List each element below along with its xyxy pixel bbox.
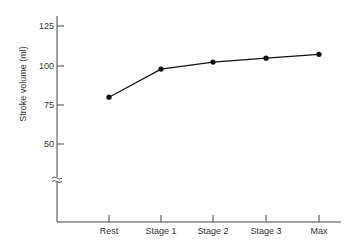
data-point-max [316, 52, 321, 57]
y-axis-title: Stroke volume (ml) [18, 46, 28, 122]
data-point-rest [106, 95, 111, 100]
y-ticks: 125 100 75 50 [39, 21, 64, 149]
ytick-50: 50 [44, 139, 54, 149]
axis-break-icon [52, 177, 62, 183]
ytick-100: 100 [39, 61, 54, 71]
data-point-stage-2 [210, 60, 215, 65]
xtick-stage-1: Stage 1 [145, 226, 176, 236]
xtick-stage-3: Stage 3 [250, 226, 281, 236]
ytick-125: 125 [39, 21, 54, 31]
data-point-stage-1 [158, 67, 163, 72]
ytick-75: 75 [44, 100, 54, 110]
xtick-rest: Rest [100, 226, 119, 236]
stroke-volume-series [106, 52, 321, 100]
data-point-stage-3 [263, 56, 268, 61]
xtick-max: Max [310, 226, 328, 236]
x-ticks: Rest Stage 1 Stage 2 Stage 3 Max [100, 215, 328, 236]
stroke-volume-chart: 125 100 75 50 Stroke volume (ml) Rest St… [0, 0, 345, 252]
xtick-stage-2: Stage 2 [197, 226, 228, 236]
